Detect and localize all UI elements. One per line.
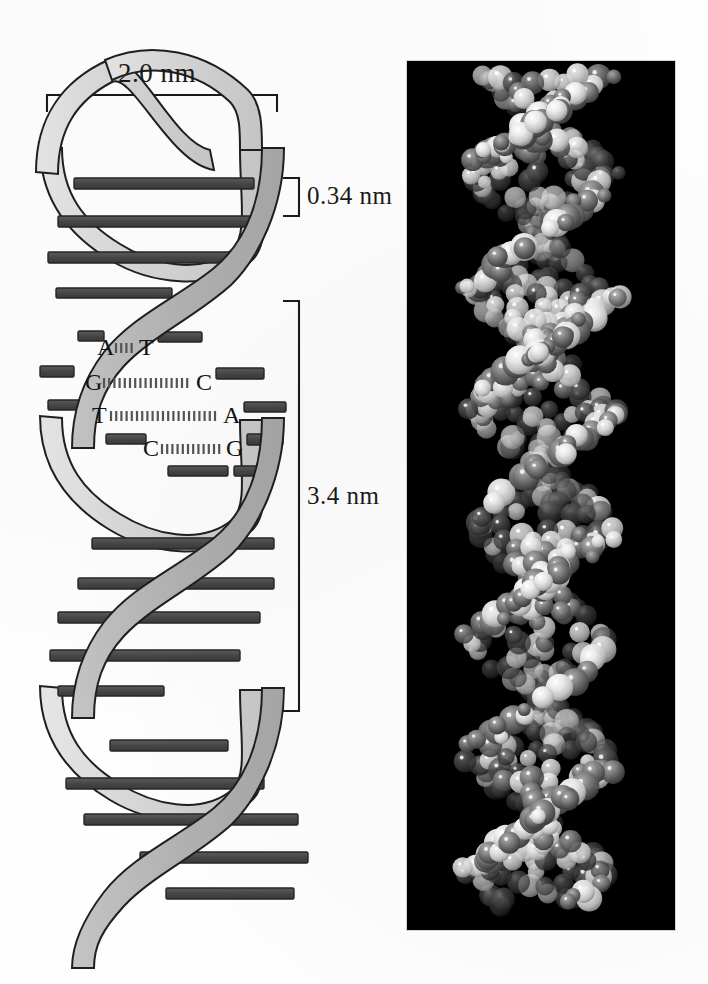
- atom-specular-highlight: [576, 768, 579, 771]
- atom-specular-highlight: [586, 654, 590, 658]
- atom-sphere: [549, 237, 571, 259]
- atom-specular-highlight: [543, 525, 547, 529]
- atom-sphere: [505, 626, 523, 644]
- atom-specular-highlight: [520, 470, 525, 475]
- atom-specular-highlight: [494, 764, 498, 768]
- atom-specular-highlight: [573, 296, 576, 299]
- atom-sphere: [498, 832, 520, 854]
- atom-sphere: [454, 624, 474, 644]
- atom-specular-highlight: [545, 777, 548, 780]
- atom-sphere: [552, 326, 574, 348]
- hydrogen-bonds-3: [162, 444, 219, 454]
- atom-specular-highlight: [571, 430, 575, 434]
- atom-specular-highlight: [524, 754, 527, 757]
- atom-specular-highlight: [505, 247, 509, 251]
- atom-specular-highlight: [460, 756, 464, 760]
- atom-specular-highlight: [560, 525, 564, 529]
- atom-specular-highlight: [511, 289, 514, 292]
- base-letter-left-0: A: [97, 335, 114, 359]
- hydrogen-bonds-2: [111, 411, 215, 421]
- atom-specular-highlight: [518, 593, 521, 596]
- atom-specular-highlight: [538, 692, 542, 696]
- atom-specular-highlight: [532, 464, 536, 468]
- atom-sphere: [560, 893, 577, 910]
- atom-specular-highlight: [495, 520, 499, 524]
- base-letter-left-3: C: [143, 436, 159, 460]
- atom-specular-highlight: [502, 752, 505, 755]
- atom-specular-highlight: [546, 536, 550, 540]
- atom-specular-highlight: [556, 606, 559, 609]
- dna-figure: ATGCTACG 2.0 nm 0.34 nm 3.4 nm: [0, 0, 708, 984]
- bracket-rise: [283, 178, 299, 216]
- base-letter-right-0: T: [139, 335, 154, 359]
- atom-specular-highlight: [537, 378, 540, 381]
- atom-specular-highlight: [516, 529, 520, 533]
- atom-specular-highlight: [530, 314, 534, 318]
- atom-specular-highlight: [512, 302, 516, 306]
- atom-specular-highlight: [458, 862, 461, 865]
- atom-sphere: [526, 723, 545, 742]
- atom-sphere: [534, 572, 553, 591]
- atom-specular-highlight: [586, 542, 590, 546]
- atom-specular-highlight: [607, 766, 611, 770]
- atom-sphere: [555, 443, 576, 464]
- atom-specular-highlight: [507, 713, 512, 718]
- atom-sphere: [483, 492, 505, 514]
- atom-sphere: [487, 246, 508, 267]
- atom-specular-highlight: [601, 423, 604, 426]
- atom-sphere: [520, 750, 537, 767]
- atom-sphere: [522, 406, 543, 427]
- atom-specular-highlight: [509, 598, 512, 601]
- atom-specular-highlight: [565, 370, 569, 374]
- atom-sphere: [474, 380, 491, 397]
- atom-specular-highlight: [558, 332, 562, 336]
- atom-specular-highlight: [495, 847, 498, 850]
- atom-specular-highlight: [558, 590, 561, 593]
- atom-specular-highlight: [546, 764, 549, 767]
- base-letter-left-2: T: [92, 403, 107, 427]
- atom-specular-highlight: [489, 607, 494, 612]
- atom-sphere: [597, 419, 614, 436]
- atom-sphere: [576, 731, 598, 753]
- label-helical-pitch: 3.4 nm: [307, 482, 379, 510]
- atom-specular-highlight: [610, 535, 613, 538]
- atom-specular-highlight: [539, 302, 542, 305]
- atom-specular-highlight: [599, 754, 604, 759]
- atom-specular-highlight: [570, 308, 574, 312]
- atom-sphere: [454, 750, 477, 773]
- atom-specular-highlight: [554, 304, 558, 308]
- atom-sphere: [453, 857, 473, 877]
- atom-specular-highlight: [526, 542, 530, 546]
- label-base-pair-rise: 0.34 nm: [307, 182, 392, 210]
- atom-specular-highlight: [493, 251, 497, 255]
- atom-specular-highlight: [517, 561, 520, 564]
- atom-specular-highlight: [553, 680, 558, 685]
- atom-sphere: [559, 830, 581, 852]
- atom-sphere: [467, 730, 486, 749]
- atom-specular-highlight: [559, 384, 562, 387]
- atom-sphere: [532, 686, 554, 708]
- atom-specular-highlight: [576, 288, 580, 292]
- base-letter-left-1: G: [85, 370, 102, 394]
- atom-specular-highlight: [480, 275, 484, 279]
- atom-sphere: [569, 622, 590, 643]
- atom-sphere: [551, 601, 571, 621]
- atom-specular-highlight: [484, 847, 488, 851]
- atom-specular-highlight: [575, 627, 579, 631]
- atom-specular-highlight: [565, 836, 569, 840]
- space-filling-model-render: [407, 61, 675, 930]
- base-letter-right-3: G: [226, 436, 243, 460]
- atom-specular-highlight: [526, 771, 530, 775]
- atom-specular-highlight: [464, 403, 468, 407]
- atom-sphere: [488, 716, 506, 734]
- atom-specular-highlight: [553, 553, 556, 556]
- atom-specular-highlight: [588, 767, 592, 771]
- atom-specular-highlight: [554, 568, 558, 572]
- space-filling-model-photo: [407, 61, 675, 930]
- atom-sphere: [486, 296, 504, 314]
- hydrogen-bonds-1: [104, 378, 187, 388]
- atom-sphere: [514, 237, 536, 259]
- atom-sphere: [586, 550, 600, 564]
- atom-specular-highlight: [557, 791, 561, 795]
- atom-specular-highlight: [519, 243, 523, 247]
